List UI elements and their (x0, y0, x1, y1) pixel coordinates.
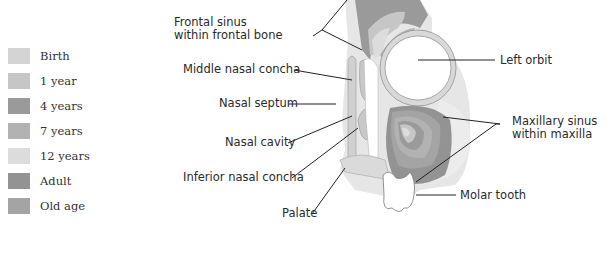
label-frontal-sinus-line-2: within frontal bone (174, 29, 312, 42)
nasal-septum (348, 56, 356, 160)
label-maxillary-sinus-line-2: within maxilla (512, 128, 597, 141)
label-nasal-cavity: Nasal cavity (225, 136, 295, 149)
label-palate: Palate (282, 207, 317, 220)
label-inferior-nasal-concha: Inferior nasal concha (183, 171, 304, 184)
label-left-orbit: Left orbit (500, 54, 552, 67)
label-maxillary-sinus: Maxillary sinus within maxilla (512, 115, 597, 141)
label-middle-nasal-concha: Middle nasal concha (183, 63, 300, 76)
left-orbit (385, 36, 451, 100)
label-molar-tooth: Molar tooth (460, 189, 526, 202)
label-nasal-septum: Nasal septum (219, 97, 298, 110)
label-frontal-sinus: Frontal sinus within frontal bone (174, 16, 312, 42)
